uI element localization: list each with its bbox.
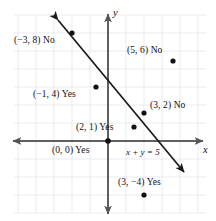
point-label-neg1-4: (−1, 4) Yes bbox=[33, 90, 76, 100]
data-point-3-2 bbox=[141, 110, 146, 115]
line-equation-label: x + y = 5 bbox=[126, 148, 160, 157]
point-label-0-0: (0, 0) Yes bbox=[52, 146, 89, 156]
data-point-5-6 bbox=[170, 58, 175, 63]
data-point-0-0 bbox=[105, 138, 111, 144]
data-point-neg1-4 bbox=[93, 84, 98, 89]
point-label-2-1: (2, 1) Yes bbox=[76, 123, 113, 133]
y-axis-label: y bbox=[113, 8, 118, 19]
point-label-neg3-8: (−3, 8) No bbox=[14, 36, 55, 46]
data-point-2-1 bbox=[131, 124, 136, 129]
x-axis-label: x bbox=[203, 145, 208, 156]
graph-figure: (−3, 8) No (5, 6) No (−1, 4) Yes (3, 2) … bbox=[0, 0, 216, 221]
point-label-3-neg4: (3, −4) Yes bbox=[118, 178, 161, 188]
data-point-neg3-8 bbox=[69, 30, 74, 35]
data-point-3-neg4 bbox=[141, 192, 146, 197]
point-label-5-6: (5, 6) No bbox=[127, 46, 162, 56]
coordinate-plane bbox=[0, 0, 216, 221]
point-label-3-2: (3, 2) No bbox=[150, 101, 185, 111]
